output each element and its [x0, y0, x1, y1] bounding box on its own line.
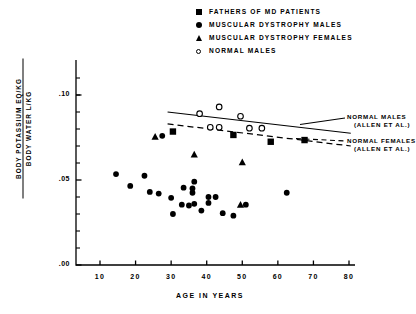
data-point [113, 171, 119, 177]
data-point [206, 200, 212, 206]
data-point [206, 194, 212, 200]
data-point [147, 189, 153, 195]
data-point [230, 132, 236, 138]
data-point [220, 210, 226, 216]
data-point [216, 104, 222, 110]
data-point [170, 211, 176, 217]
data-point [213, 194, 219, 200]
annotation-leader-line [300, 118, 345, 125]
data-point [238, 113, 244, 119]
y-axis-tick-label: .05 [44, 175, 70, 182]
y-axis-tick-label: .00 [44, 260, 70, 267]
data-point [159, 133, 165, 139]
x-axis-tick-label: 10 [88, 273, 112, 280]
data-point [284, 190, 290, 196]
data-point [170, 128, 176, 134]
data-point [142, 173, 148, 179]
data-point [190, 190, 196, 196]
x-axis-tick-label: 80 [337, 273, 361, 280]
data-point [152, 133, 159, 140]
data-point [191, 179, 197, 185]
data-point [197, 111, 203, 117]
data-point [259, 125, 265, 131]
x-axis-tick-label: 70 [301, 273, 325, 280]
data-point [181, 185, 187, 191]
data-point [156, 191, 162, 197]
data-point [207, 125, 213, 131]
data-point [230, 213, 236, 219]
y-axis-tick-label: .10 [44, 90, 70, 97]
x-axis-tick-label: 60 [266, 273, 290, 280]
x-axis-tick-label: 30 [159, 273, 183, 280]
data-point [191, 201, 197, 207]
data-point [179, 202, 185, 208]
data-point [186, 203, 192, 209]
data-point [268, 139, 274, 145]
data-point [247, 125, 253, 131]
data-point [301, 137, 307, 143]
data-point [168, 195, 174, 201]
data-point [216, 125, 222, 131]
data-point [198, 208, 204, 214]
data-point [127, 183, 133, 189]
data-point [243, 202, 249, 208]
data-point [239, 158, 246, 165]
data-point [191, 151, 198, 158]
x-axis-tick-label: 20 [124, 273, 148, 280]
x-axis-tick-label: 40 [195, 273, 219, 280]
x-axis-tick-label: 50 [230, 273, 254, 280]
